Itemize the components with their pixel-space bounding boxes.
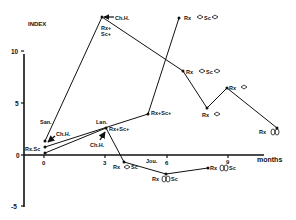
x-tick-label: 3 <box>103 160 107 166</box>
svg-text:Sc: Sc <box>229 165 236 171</box>
y-tick-label: 10 <box>11 48 19 55</box>
diamond-shape-icon <box>124 165 130 169</box>
diamond-shape-icon <box>197 15 203 19</box>
chh-label-mid: Ch.H. <box>90 142 105 148</box>
label-origin: Rx.Sc <box>25 146 40 152</box>
label-jou-rxsc: Rx+Sc+ <box>109 126 129 132</box>
y-axis-title: INDEX <box>28 21 46 27</box>
diamond-shape-icon <box>212 15 218 19</box>
y-tick-label: 0 <box>16 152 20 159</box>
bracket-shape-icon <box>271 129 275 135</box>
label-rx-oo-sc-1: Rx Sc <box>152 176 178 182</box>
label-rx-dia-a: Rx <box>202 112 220 118</box>
label-peak-2: Sc+ <box>101 31 111 37</box>
diamond-shape-icon <box>199 69 205 73</box>
svg-text:Sc: Sc <box>206 69 213 75</box>
svg-text:Sc: Sc <box>131 164 138 170</box>
svg-text:Sc: Sc <box>171 176 178 182</box>
chh-arrow-mid <box>100 132 105 140</box>
y-tick-label: -5 <box>11 203 17 210</box>
chh-label-left: Ch.H. <box>56 131 71 137</box>
label-rx-dia-b: Rx <box>229 85 247 91</box>
bracket-shape-icon <box>220 165 224 171</box>
diamond-shape-icon <box>241 85 247 89</box>
series-san-line <box>45 17 277 141</box>
svg-text:Sc: Sc <box>204 15 211 21</box>
x-tick-label: 6 <box>165 160 169 166</box>
x-tick-label: 0 <box>42 160 46 166</box>
svg-text:Rx: Rx <box>202 112 210 118</box>
y-tick-label: 5 <box>15 100 19 107</box>
series-jou-label: Jou. <box>146 158 158 164</box>
bracket-shape-icon <box>162 176 166 182</box>
svg-text:Rx: Rx <box>186 69 194 75</box>
chh-arrow-left <box>48 136 55 142</box>
label-rx-oo-sc-2: Rx Sc <box>210 165 236 171</box>
svg-text:Rx: Rx <box>210 165 218 171</box>
x-axis-title: months <box>257 156 282 163</box>
svg-text:Rx: Rx <box>259 129 267 135</box>
diamond-shape-icon <box>214 69 220 73</box>
label-rx-dia-sc-dia-mid: Rx Sc <box>186 69 220 75</box>
data-points <box>44 16 279 176</box>
series-san-label: San. <box>40 119 52 125</box>
label-lan-rxsc: Rx+Sc+ <box>151 110 171 116</box>
diamond-shape-icon <box>214 112 220 116</box>
label-rx-oo: Rx <box>259 129 279 135</box>
svg-text:Rx: Rx <box>184 15 192 21</box>
svg-text:Rx: Rx <box>229 85 237 91</box>
chh-label-top: Ch.H. <box>115 15 130 21</box>
label-rx-dia-sc-jou: Rx Sc <box>113 164 138 170</box>
bracket-shape-icon <box>224 165 228 171</box>
series-lan-label: Lan. <box>96 119 108 125</box>
bracket-shape-icon <box>166 176 170 182</box>
svg-text:Rx: Rx <box>113 164 121 170</box>
bracket-shape-icon <box>275 129 279 135</box>
svg-text:Rx: Rx <box>152 176 160 182</box>
index-chart: 10 5 0 -5 INDEX 0 3 6 9 months Ch.H. Ch.… <box>0 0 296 220</box>
label-rx-dia-sc-dia-top: Rx Sc <box>184 15 218 21</box>
